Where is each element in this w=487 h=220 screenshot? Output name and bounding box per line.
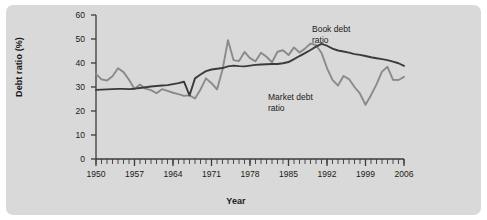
y-tick-label-50: 50	[63, 34, 85, 44]
x-tick-label-1999: 1999	[349, 169, 383, 179]
x-tick-label-1992: 1992	[310, 169, 344, 179]
y-tick-label-10: 10	[63, 130, 85, 140]
x-tick-label-1985: 1985	[272, 169, 306, 179]
x-tick-label-1950: 1950	[79, 169, 113, 179]
book-debt-ratio-line	[96, 44, 404, 96]
x-tick-label-2006: 2006	[387, 169, 421, 179]
y-axis-ticks	[91, 15, 96, 159]
market-debt-ratio-annotation: Market debt ratio	[268, 92, 313, 113]
book-debt-ratio-annotation: Book debt ratio	[312, 24, 350, 45]
y-axis-title: Debt ratio (%)	[14, 22, 24, 112]
x-tick-label-1964: 1964	[156, 169, 190, 179]
y-tick-label-30: 30	[63, 82, 85, 92]
x-tick-label-1978: 1978	[233, 169, 267, 179]
book-annotation-line2: ratio	[312, 35, 350, 46]
market-debt-ratio-line	[96, 40, 404, 105]
x-axis-major-ticks	[96, 159, 404, 166]
y-tick-label-60: 60	[63, 10, 85, 20]
market-annotation-line2: ratio	[268, 103, 313, 114]
x-axis-title: Year	[176, 196, 296, 206]
market-annotation-line1: Market debt	[268, 92, 313, 103]
x-tick-label-1971: 1971	[195, 169, 229, 179]
book-annotation-line1: Book debt	[312, 24, 350, 35]
chart-figure: Debt ratio (%) Year 0102030405060 195019…	[0, 0, 487, 220]
chart-plot-area: Debt ratio (%) Year 0102030405060 195019…	[0, 0, 487, 220]
y-tick-label-0: 0	[63, 154, 85, 164]
y-tick-label-40: 40	[63, 58, 85, 68]
y-tick-label-20: 20	[63, 106, 85, 116]
x-tick-label-1957: 1957	[118, 169, 152, 179]
